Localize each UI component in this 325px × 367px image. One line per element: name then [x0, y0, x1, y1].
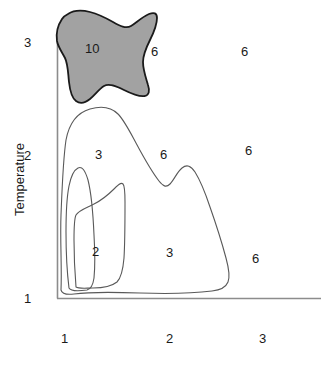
contour-path-level-2	[66, 168, 95, 291]
y-tick-label-3: 3	[24, 35, 31, 50]
contour-label-mid-inner-3: 3	[95, 147, 102, 162]
contour-label-lower-inner-3: 3	[166, 245, 173, 260]
y-tick-label-1: 1	[24, 291, 31, 306]
x-tick-label-2: 2	[166, 331, 173, 346]
contour-label-core-2: 2	[92, 244, 99, 259]
contour-path-level-3	[74, 183, 125, 288]
contour-path-level-6	[61, 107, 229, 294]
contour-label-mid-right-6: 6	[245, 143, 252, 158]
contour-plot-figure: Temperature 3 2 1 1 2 3 10 6 6 3 6 6 2 3…	[0, 0, 325, 367]
contour-label-10: 10	[85, 41, 99, 56]
contour-label-upper-right-6: 6	[241, 44, 248, 59]
x-tick-label-3: 3	[259, 331, 266, 346]
contour-label-lower-right-6: 6	[252, 251, 259, 266]
x-tick-label-1: 1	[61, 331, 68, 346]
contour-label-mid-boundary-6: 6	[160, 147, 167, 162]
y-tick-label-2: 2	[24, 148, 31, 163]
plot-canvas	[0, 0, 325, 367]
y-axis-title: Temperature	[12, 125, 27, 235]
contour-label-upper-band-6: 6	[151, 44, 158, 59]
shaded-region-level-10	[57, 11, 157, 103]
